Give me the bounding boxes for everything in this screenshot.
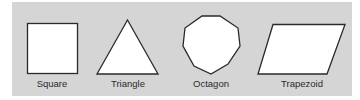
octagon-shape: [183, 16, 240, 74]
trapezoid-label: Trapezoid: [262, 78, 342, 89]
triangle-shape: [97, 20, 158, 74]
trapezoid-shape: [258, 25, 345, 75]
square-shape: [28, 24, 78, 74]
triangle-label: Triangle: [88, 78, 168, 89]
square-label: Square: [12, 78, 92, 89]
octagon-label: Octagon: [171, 78, 251, 89]
